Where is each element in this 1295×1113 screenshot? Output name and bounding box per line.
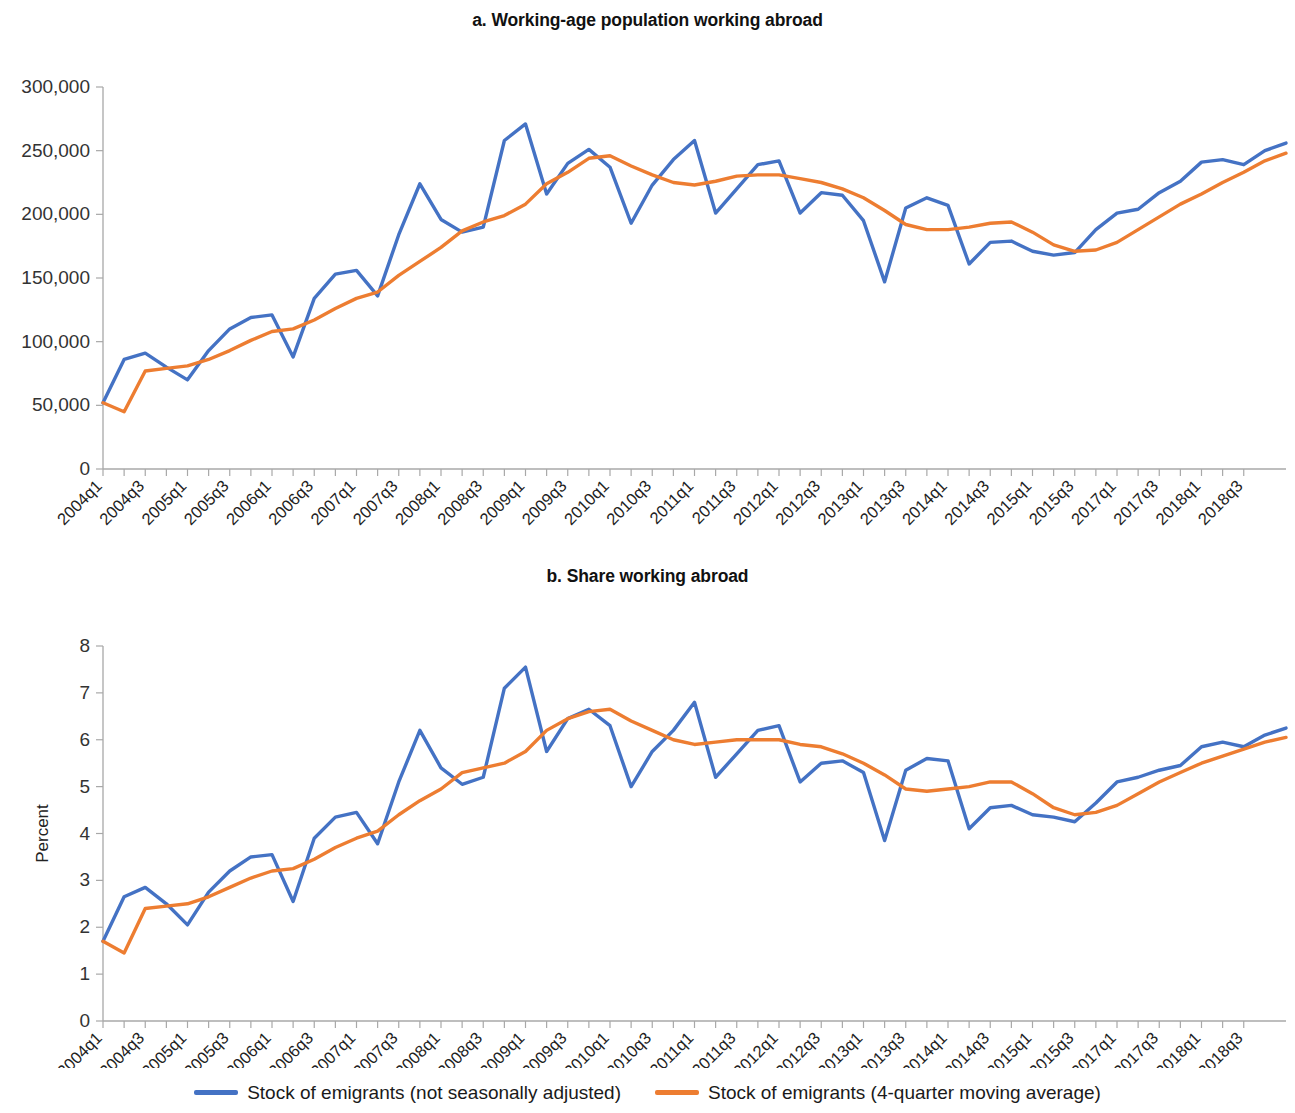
y-tick-label: 5 [79,776,90,797]
legend-item-not-seasonally-adjusted[interactable]: Stock of emigrants (not seasonally adjus… [194,1082,621,1104]
x-tick-label: 2007q3 [349,1028,401,1068]
x-tick-label: 2011q1 [646,476,697,527]
x-tick-label: 2015q1 [983,1028,1035,1068]
x-tick-label: 2004q3 [96,1028,148,1068]
x-tick-label: 2007q1 [307,476,359,528]
series-line-moving-average [103,709,1286,953]
panel-b-svg: 012345678Percent2004q12004q32005q12005q3… [0,588,1295,1068]
x-tick-label: 2012q1 [729,1028,781,1068]
x-tick-label: 2011q3 [688,1028,739,1068]
x-tick-label: 2007q1 [307,1028,359,1068]
x-tick-label: 2018q3 [1194,476,1246,528]
y-tick-label: 2 [79,916,90,937]
panel-b-plot-area: 012345678Percent2004q12004q32005q12005q3… [0,588,1295,978]
x-tick-label: 2013q3 [856,476,908,528]
x-tick-label: 2005q1 [138,1028,190,1068]
y-tick-label: 250,000 [21,140,90,161]
x-tick-label: 2004q1 [53,476,105,528]
x-tick-label: 2013q1 [814,476,866,528]
panel-a-svg: 050,000100,000150,000200,000250,000300,0… [0,32,1295,544]
y-tick-label: 0 [79,1010,90,1031]
x-tick-label: 2014q1 [898,1028,950,1068]
y-tick-label: 3 [79,869,90,890]
x-tick-label: 2009q3 [518,1028,570,1068]
x-tick-label: 2006q3 [265,476,317,528]
chart-legend: Stock of emigrants (not seasonally adjus… [0,1072,1295,1113]
series-line-moving-average [103,153,1286,411]
y-tick-label: 200,000 [21,203,90,224]
x-tick-label: 2004q3 [96,476,148,528]
legend-label-not-seasonally-adjusted: Stock of emigrants (not seasonally adjus… [247,1082,621,1104]
x-tick-label: 2017q3 [1110,1028,1162,1068]
x-tick-label: 2015q1 [983,476,1035,528]
y-tick-label: 4 [79,823,90,844]
x-tick-label: 2014q3 [941,1028,993,1068]
x-tick-label: 2010q1 [560,476,612,528]
x-tick-label: 2013q1 [814,1028,866,1068]
x-tick-label: 2017q1 [1067,476,1119,528]
x-tick-label: 2014q1 [898,476,950,528]
x-tick-label: 2009q3 [518,476,570,528]
x-tick-label: 2007q3 [349,476,401,528]
y-tick-label: 7 [79,682,90,703]
x-tick-label: 2018q3 [1194,1028,1246,1068]
panel-b-title: b. Share working abroad [0,556,1295,588]
chart-panel-a: a. Working-age population working abroad… [0,0,1295,540]
y-tick-label: 0 [79,458,90,479]
x-tick-label: 2010q1 [560,1028,612,1068]
series-line-not-seasonally-adjusted [103,667,1286,941]
legend-swatch-blue-line-icon [194,1090,238,1095]
x-tick-label: 2006q1 [222,476,274,528]
x-tick-label: 2012q3 [772,1028,824,1068]
y-tick-label: 8 [79,635,90,656]
x-tick-label: 2015q3 [1025,476,1077,528]
x-tick-label: 2008q1 [391,1028,443,1068]
x-tick-label: 2011q1 [646,1028,697,1068]
series-line-not-seasonally-adjusted [103,124,1286,403]
x-tick-label: 2010q3 [603,476,655,528]
x-tick-label: 2005q1 [138,476,190,528]
y-tick-label: 50,000 [32,394,90,415]
x-tick-label: 2017q3 [1110,476,1162,528]
x-tick-label: 2005q3 [180,1028,232,1068]
x-tick-label: 2008q3 [434,1028,486,1068]
y-tick-label: 300,000 [21,76,90,97]
x-tick-label: 2010q3 [603,1028,655,1068]
x-tick-label: 2006q1 [222,1028,274,1068]
x-tick-label: 2013q3 [856,1028,908,1068]
x-tick-label: 2011q3 [688,476,739,527]
y-tick-label: 1 [79,963,90,984]
panel-a-plot-area: 050,000100,000150,000200,000250,000300,0… [0,32,1295,442]
y-tick-label: 100,000 [21,331,90,352]
x-tick-label: 2012q1 [729,476,781,528]
x-tick-label: 2014q3 [941,476,993,528]
x-tick-label: 2012q3 [772,476,824,528]
panel-a-title: a. Working-age population working abroad [0,0,1295,32]
legend-label-moving-average: Stock of emigrants (4-quarter moving ave… [708,1082,1101,1104]
x-tick-label: 2008q3 [434,476,486,528]
y-tick-label: 150,000 [21,267,90,288]
x-tick-label: 2015q3 [1025,1028,1077,1068]
x-tick-label: 2008q1 [391,476,443,528]
chart-panel-b: b. Share working abroad 012345678Percent… [0,556,1295,1056]
y-axis-title: Percent [33,804,52,863]
legend-swatch-orange-line-icon [655,1090,699,1095]
x-tick-label: 2018q1 [1152,476,1204,528]
x-tick-label: 2006q3 [265,1028,317,1068]
x-tick-label: 2005q3 [180,476,232,528]
x-tick-label: 2017q1 [1067,1028,1119,1068]
x-tick-label: 2009q1 [476,476,528,528]
y-tick-label: 6 [79,729,90,750]
x-tick-label: 2009q1 [476,1028,528,1068]
x-tick-label: 2004q1 [53,1028,105,1068]
x-tick-label: 2018q1 [1152,1028,1204,1068]
legend-item-moving-average[interactable]: Stock of emigrants (4-quarter moving ave… [655,1082,1101,1104]
